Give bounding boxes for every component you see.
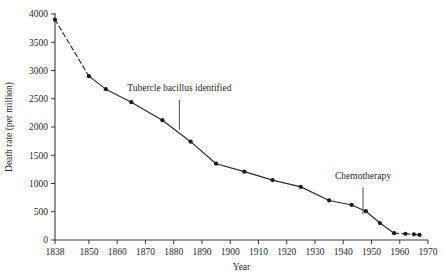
- x-tick-label: 1960: [390, 247, 409, 257]
- y-tick-label: 3500: [29, 38, 48, 48]
- data-line-segment: [329, 200, 352, 205]
- axes: [55, 13, 428, 240]
- annotation-label: Chemotherapy: [335, 171, 391, 181]
- x-axis-ticks: 1838185018601870188018901900191019201930…: [46, 240, 438, 257]
- x-tick-label: 1920: [277, 247, 296, 257]
- y-axis-label: Death rate (per million): [4, 82, 15, 172]
- data-line: [55, 20, 420, 235]
- x-tick-label: 1870: [136, 247, 155, 257]
- data-point-marker: [350, 203, 354, 207]
- y-tick-label: 0: [43, 235, 48, 245]
- data-line-segment: [352, 205, 366, 211]
- data-line-segment: [89, 76, 106, 89]
- data-point-marker: [53, 18, 57, 22]
- y-tick-label: 500: [34, 207, 49, 217]
- y-tick-label: 4000: [29, 9, 48, 19]
- data-point-marker: [403, 232, 407, 236]
- data-line-segment: [244, 172, 272, 180]
- data-point-marker: [364, 209, 368, 213]
- data-point-marker: [214, 162, 218, 166]
- data-line-segment: [301, 187, 329, 201]
- data-line-segment: [191, 142, 216, 164]
- data-line-segment: [273, 180, 301, 187]
- x-tick-label: 1900: [221, 247, 240, 257]
- x-tick-label: 1930: [305, 247, 324, 257]
- chart-figure: 05001000150020002500300035004000 1838185…: [0, 0, 447, 280]
- data-line-segment: [366, 211, 380, 223]
- data-point-marker: [327, 198, 331, 202]
- x-axis-label: Year: [233, 262, 251, 272]
- data-point-marker: [129, 100, 133, 104]
- y-tick-label: 1500: [29, 151, 48, 161]
- data-point-marker: [412, 232, 416, 236]
- x-tick-label: 1890: [192, 247, 211, 257]
- x-tick-label: 1950: [362, 247, 381, 257]
- y-axis-ticks: 05001000150020002500300035004000: [29, 9, 55, 245]
- data-point-marker: [392, 231, 396, 235]
- data-line-segment: [380, 223, 394, 233]
- x-tick-label: 1910: [249, 247, 268, 257]
- y-tick-label: 3000: [29, 66, 48, 76]
- x-tick-label: 1880: [164, 247, 183, 257]
- y-tick-label: 1000: [29, 179, 48, 189]
- data-line-segment: [55, 20, 89, 77]
- x-tick-label: 1860: [108, 247, 127, 257]
- data-point-marker: [417, 233, 421, 237]
- x-tick-label: 1970: [419, 247, 438, 257]
- data-point-marker: [189, 140, 193, 144]
- data-point-marker: [87, 74, 91, 78]
- data-line-segment: [162, 120, 190, 141]
- annotation-label: Tubercle bacillus identified: [127, 83, 231, 93]
- data-line-segment: [216, 164, 244, 172]
- data-point-marker: [378, 221, 382, 225]
- data-point-marker: [242, 170, 246, 174]
- data-point-marker: [160, 118, 164, 122]
- data-point-marker: [270, 178, 274, 182]
- x-tick-label: 1850: [79, 247, 98, 257]
- chart-annotations: Tubercle bacillus identifiedChemotherapy: [127, 83, 391, 214]
- y-tick-label: 2000: [29, 122, 48, 132]
- data-markers: [53, 18, 422, 237]
- axis-lines: [55, 13, 428, 240]
- data-line-segment: [131, 102, 162, 120]
- y-tick-label: 2500: [29, 94, 48, 104]
- x-tick-label: 1838: [46, 247, 65, 257]
- data-point-marker: [299, 185, 303, 189]
- data-point-marker: [104, 87, 108, 91]
- x-tick-label: 1940: [334, 247, 353, 257]
- tuberculosis-death-rate-line-chart: 05001000150020002500300035004000 1838185…: [0, 0, 447, 280]
